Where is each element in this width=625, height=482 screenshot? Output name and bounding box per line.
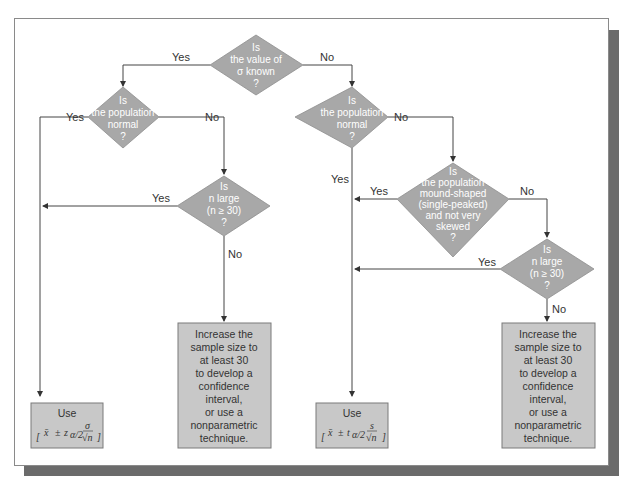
svg-text:the population: the population: [92, 107, 155, 118]
svg-text:Is: Is: [252, 42, 260, 53]
label-left-n-large-no: No: [228, 248, 242, 260]
svg-text:confidence: confidence: [523, 380, 574, 392]
svg-text:(n ≥ 30): (n ≥ 30): [530, 268, 564, 279]
result-t-interval: Use [ ] x̄ ± t α/2 s √n: [316, 403, 388, 448]
svg-text:normal: normal: [108, 119, 139, 130]
label-right-n-large-no: No: [552, 303, 566, 315]
svg-text:Is: Is: [348, 95, 356, 106]
svg-text:technique.: technique.: [200, 432, 248, 444]
svg-text:±: ±: [338, 427, 344, 438]
svg-text:sample size to: sample size to: [514, 341, 581, 353]
flowchart: Yes No Yes No Yes No Yes No Yes No Yes N…: [0, 0, 625, 482]
svg-text:α/2: α/2: [352, 429, 365, 440]
decision-mound-shaped: Is the population mound-shaped (single-p…: [397, 163, 509, 257]
svg-text:at least 30: at least 30: [524, 354, 573, 366]
edge-sigma-no: [303, 65, 352, 86]
svg-text:Is: Is: [119, 95, 127, 106]
label-left-n-large-yes: Yes: [152, 192, 170, 204]
result-increase-sample-left: Increase the sample size to at least 30 …: [178, 323, 271, 448]
svg-text:?: ?: [544, 280, 550, 291]
svg-text:√n: √n: [366, 432, 377, 443]
svg-text:n large: n large: [209, 193, 240, 204]
svg-text:z: z: [63, 427, 68, 438]
svg-text:x̄: x̄: [327, 427, 333, 438]
svg-text:the value of: the value of: [230, 54, 282, 65]
label-mound-no: No: [520, 185, 534, 197]
decision-sigma-known: Is the value of σ known ?: [210, 35, 303, 95]
svg-text:the population: the population: [422, 177, 485, 188]
svg-text:interval,: interval,: [530, 393, 567, 405]
svg-text:mound-shaped: mound-shaped: [420, 188, 487, 199]
svg-text:the population: the population: [321, 107, 384, 118]
label-right-n-large-yes: Yes: [478, 256, 496, 268]
svg-text:confidence: confidence: [199, 380, 250, 392]
svg-text:technique.: technique.: [524, 432, 572, 444]
svg-text:(n ≥ 30): (n ≥ 30): [207, 205, 241, 216]
svg-text:interval,: interval,: [206, 393, 243, 405]
result-z-interval: Use [ ] x̄ ± z α/2 σ √n: [31, 403, 103, 448]
label-right-normal-no: No: [394, 111, 408, 123]
svg-text:s: s: [370, 420, 374, 431]
svg-text:skewed: skewed: [436, 221, 470, 232]
svg-text:σ known: σ known: [237, 66, 275, 77]
svg-text:sample size to: sample size to: [190, 341, 257, 353]
svg-text:and not very: and not very: [425, 210, 480, 221]
label-sigma-yes: Yes: [172, 51, 190, 63]
svg-text:to develop a: to develop a: [519, 367, 576, 379]
result-increase-sample-right: Increase the sample size to at least 30 …: [502, 323, 595, 448]
svg-text:or use a: or use a: [529, 406, 567, 418]
svg-text:Use: Use: [343, 407, 362, 419]
svg-text:(single-peaked): (single-peaked): [419, 199, 488, 210]
svg-text:Increase the: Increase the: [195, 328, 253, 340]
svg-text:x̄: x̄: [43, 427, 49, 438]
edge-mound-no: [509, 199, 547, 237]
svg-text:Is: Is: [449, 166, 457, 177]
label-right-normal-yes: Yes: [331, 173, 349, 185]
svg-text:?: ?: [349, 131, 355, 142]
edge-labels: Yes No Yes No Yes No Yes No Yes No Yes N…: [66, 51, 566, 315]
svg-text:]: ]: [381, 431, 386, 442]
svg-text:]: ]: [96, 431, 101, 442]
label-left-normal-no: No: [205, 111, 219, 123]
svg-text:t: t: [347, 427, 350, 438]
decision-left-n-large: Is n large (n ≥ 30) ?: [177, 176, 270, 236]
svg-text:at least 30: at least 30: [200, 354, 249, 366]
svg-text:to develop a: to develop a: [195, 367, 252, 379]
label-sigma-no: No: [320, 51, 334, 63]
label-left-normal-yes: Yes: [66, 111, 84, 123]
svg-text:n large: n large: [532, 256, 563, 267]
svg-text:?: ?: [253, 78, 259, 89]
svg-text:?: ?: [221, 217, 227, 228]
edge-right-normal-no: [388, 117, 453, 161]
svg-text:Increase the: Increase the: [519, 328, 577, 340]
svg-text:normal: normal: [337, 119, 368, 130]
edge-left-normal-yes: [40, 117, 88, 396]
svg-text:?: ?: [120, 131, 126, 142]
svg-text:or use a: or use a: [205, 406, 243, 418]
svg-text:√n: √n: [82, 432, 93, 443]
edge-left-normal-no: [159, 117, 224, 174]
svg-text:Use: Use: [58, 407, 77, 419]
label-mound-yes: Yes: [370, 185, 388, 197]
svg-text:Is: Is: [543, 244, 551, 255]
edge-sigma-yes: [123, 65, 210, 86]
svg-text:±: ±: [55, 427, 61, 438]
svg-text:Is: Is: [220, 181, 228, 192]
svg-text:nonparametric: nonparametric: [514, 419, 581, 431]
decision-right-normal: Is the population normal ?: [295, 87, 388, 148]
svg-text:?: ?: [450, 232, 456, 243]
svg-text:nonparametric: nonparametric: [190, 419, 257, 431]
decision-left-normal: Is the population normal ?: [88, 87, 159, 148]
decision-right-n-large: Is n large (n ≥ 30) ?: [500, 239, 594, 299]
